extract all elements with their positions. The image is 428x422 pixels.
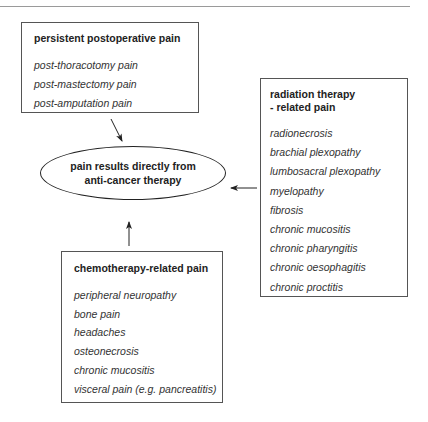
arrows xyxy=(0,0,428,422)
arrow-postoperative-to-center xyxy=(111,119,122,141)
